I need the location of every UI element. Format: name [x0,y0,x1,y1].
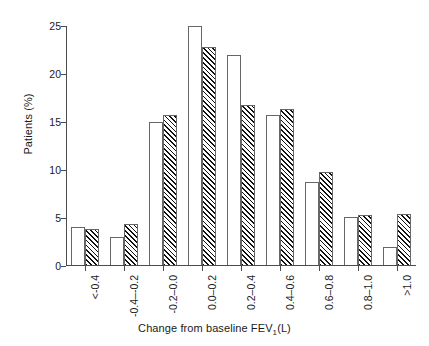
x-tick-mark [124,266,125,271]
bar-hatched [124,224,138,266]
bar-hatched [280,109,294,266]
x-tick-label: -0.4–-0.2 [129,275,140,317]
x-axis-title: Change from baseline FEV1(L) [0,322,429,337]
y-tick-mark [61,170,66,171]
bar-open [188,26,202,266]
x-tick-mark [241,266,242,271]
x-tick-label: >1.0 [402,275,413,296]
y-tick-mark [61,266,66,267]
bar-hatched [241,105,255,266]
y-tick-label: 15 [37,117,61,128]
bar-open [266,115,280,266]
x-tick-mark [358,266,359,271]
bar-hatched [397,214,411,266]
x-tick-label: -0.2–0.0 [168,275,179,314]
x-tick-label: 0.4–0.6 [285,275,296,310]
bar-hatched [163,115,177,266]
x-tick-label: 0.2–0.4 [246,275,257,310]
x-tick-mark [397,266,398,271]
x-tick-mark [280,266,281,271]
bar-open [149,122,163,266]
y-axis-tick-labels: 0510152025 [33,0,61,346]
bar-hatched [319,172,333,266]
y-tick-label: 0 [37,261,61,272]
x-axis-title-unit: (L) [277,322,291,334]
bar-open [383,247,397,266]
y-tick-label: 5 [37,213,61,224]
y-tick-mark [61,26,66,27]
bar-open [344,217,358,266]
x-tick-mark [202,266,203,271]
bar-hatched [358,215,372,266]
x-tick-label: <-0.4 [90,275,101,299]
y-tick-label: 20 [37,69,61,80]
bar-open [305,182,319,266]
plot-area [66,26,416,266]
x-tick-label: 0.8–1.0 [363,275,374,310]
bar-open [227,55,241,266]
y-tick-label: 10 [37,165,61,176]
x-tick-label: 0.6–0.8 [324,275,335,310]
bar-open [110,237,124,266]
bar-hatched [202,47,216,266]
x-axis-title-text: Change from baseline FEV [138,322,272,334]
y-tick-label: 25 [37,21,61,32]
bar-hatched [85,229,99,266]
y-tick-mark [61,218,66,219]
y-tick-mark [61,122,66,123]
x-tick-mark [85,266,86,271]
x-tick-mark [319,266,320,271]
x-tick-mark [163,266,164,271]
bar-open [71,227,85,266]
x-tick-label: 0.0–0.2 [207,275,218,310]
y-tick-mark [61,74,66,75]
bar-chart-figure: Patients (%) 0510152025 Change from base… [0,0,429,346]
